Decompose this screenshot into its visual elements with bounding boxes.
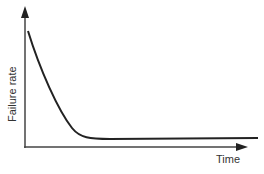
x-axis-label: Time xyxy=(216,153,240,165)
chart-canvas xyxy=(0,0,264,174)
y-axis-label: Failure rate xyxy=(3,64,21,124)
y-axis-arrow-icon xyxy=(21,6,29,18)
failure-rate-chart: Failure rate Time xyxy=(0,0,264,174)
failure-rate-curve xyxy=(28,31,258,139)
x-axis-arrow-icon xyxy=(236,143,248,151)
